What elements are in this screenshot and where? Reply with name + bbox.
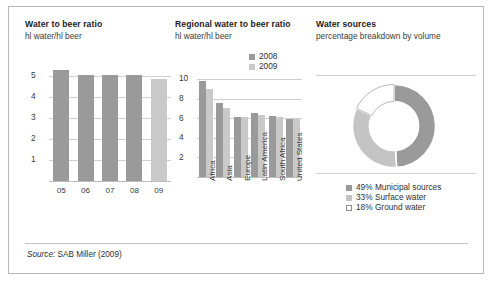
legend-item-1: 33% Surface water — [346, 193, 441, 202]
axis-baseline — [49, 181, 171, 182]
x-tick-label: 08 — [122, 187, 146, 195]
panel-regional-water-to-beer-ratio: Regional water to beer ratio hl water/hl… — [175, 19, 325, 41]
donut-slice-surface-water — [352, 108, 396, 167]
y-tick-label: 4 — [31, 92, 45, 100]
legend-water-sources: 49% Municipal sources33% Surface water18… — [346, 183, 441, 213]
y-tick-label: 4 — [179, 133, 193, 141]
bar-europe-2008 — [234, 117, 241, 177]
legend-label: 18% Ground water — [356, 203, 425, 211]
y-tick-label: 3 — [31, 113, 45, 121]
y-tick-label: 6 — [179, 114, 193, 122]
panel-title: Water sources — [316, 19, 481, 29]
y-tick-label: 2 — [179, 153, 193, 161]
donut-rule-top — [316, 75, 476, 76]
legend-label: 2008 — [259, 52, 277, 60]
bar-06 — [78, 75, 94, 181]
legend-swatch — [346, 205, 352, 211]
bar-05 — [53, 70, 69, 181]
x-tick-label: 09 — [147, 187, 171, 195]
source-note: Source: SAB Miller (2009) — [27, 250, 122, 259]
bar-africa-2008 — [199, 81, 206, 177]
panel-title: Water to beer ratio — [25, 19, 175, 29]
donut-rule-bottom — [316, 173, 476, 174]
panel-title: Regional water to beer ratio — [175, 19, 325, 29]
figure-frame: Water to beer ratio hl water/hl beer 123… — [8, 6, 484, 274]
legend-item-2: 18% Ground water — [346, 203, 441, 212]
bar-series — [49, 63, 171, 181]
y-tick-label: 8 — [179, 94, 193, 102]
bar-07 — [102, 75, 118, 181]
x-tick-label: 06 — [73, 187, 97, 195]
legend-label: 49% Municipal sources — [356, 183, 441, 191]
bar-09 — [151, 79, 167, 181]
x-tick-label: South Africa — [279, 137, 287, 181]
x-tick-label: Europe — [244, 155, 252, 181]
x-tick-label: Africa — [209, 160, 217, 181]
chart-water-to-beer-ratio — [49, 63, 171, 181]
donut-chart-water-sources — [352, 84, 436, 168]
y-tick-label: 2 — [31, 134, 45, 142]
panel-water-sources: Water sources percentage breakdown by vo… — [316, 19, 481, 41]
bar-united-states-2008 — [286, 119, 293, 177]
footer-divider — [25, 243, 468, 244]
x-tick-label: 05 — [49, 187, 73, 195]
y-tick-label: 5 — [31, 71, 45, 79]
panel-water-to-beer-ratio: Water to beer ratio hl water/hl beer — [25, 19, 175, 41]
panel-subtitle: hl water/hl beer — [25, 31, 175, 41]
bar-latin-america-2008 — [251, 113, 258, 177]
source-value: SAB Miller (2009) — [58, 250, 122, 259]
bar-south-africa-2008 — [269, 116, 276, 177]
legend-swatch — [346, 185, 352, 191]
donut-slice-municipal-sources — [394, 84, 436, 167]
y-tick-label: 10 — [179, 74, 193, 82]
donut-svg — [352, 84, 436, 168]
y-tick-label: 1 — [31, 155, 45, 163]
bar-asia-2008 — [216, 103, 223, 177]
legend-swatch — [346, 195, 352, 201]
x-tick-label: Latin America — [261, 132, 269, 181]
legend-label: 33% Surface water — [356, 193, 426, 201]
bar-08 — [126, 75, 142, 181]
x-tick-label: Asia — [226, 165, 234, 181]
legend-item-2008: 2008 — [249, 52, 277, 61]
x-tick-label: United States — [296, 132, 304, 181]
legend-swatch — [249, 54, 255, 60]
x-tick-label: 07 — [98, 187, 122, 195]
panel-subtitle: hl water/hl beer — [175, 31, 325, 41]
panel-subtitle: percentage breakdown by volume — [316, 31, 481, 41]
source-label: Source: — [27, 250, 55, 259]
legend-item-0: 49% Municipal sources — [346, 183, 441, 192]
